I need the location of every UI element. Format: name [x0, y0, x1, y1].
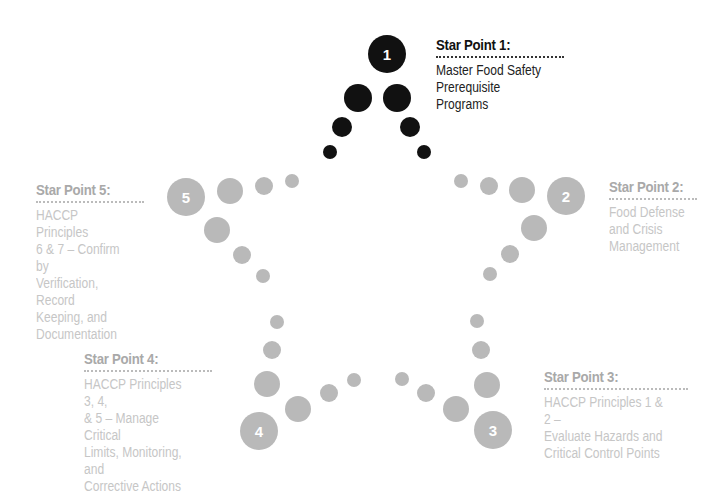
- star-point-5-title: Star Point 5:: [36, 181, 131, 199]
- dotted-divider: [436, 56, 564, 58]
- connector-dot: [233, 246, 251, 264]
- connector-dot: [480, 177, 498, 195]
- star-point-2-description: Food Defense and Crisis Management: [609, 204, 685, 255]
- connector-dot: [472, 341, 490, 359]
- connector-dot: [204, 217, 230, 243]
- star-point-1-circle: 1: [368, 35, 406, 73]
- connector-dot: [509, 177, 535, 203]
- star-point-2-circle: 2: [547, 177, 585, 215]
- connector-dot: [255, 177, 273, 195]
- star-point-2-title: Star Point 2:: [609, 178, 686, 196]
- star-point-3-number: 3: [489, 422, 497, 439]
- connector-dot: [217, 178, 243, 204]
- star-point-4-circle: 4: [240, 412, 278, 450]
- star-point-2-label: Star Point 2: Food Defense and Crisis Ma…: [609, 178, 697, 255]
- connector-dot: [454, 174, 468, 188]
- star-point-3-label: Star Point 3: HACCP Principles 1 & 2 – E…: [544, 368, 688, 462]
- star-point-1-description: Master Food Safety Prerequisite Programs: [436, 62, 546, 113]
- star-point-5-circle: 5: [167, 178, 205, 216]
- connector-dot: [285, 396, 311, 422]
- dotted-divider: [36, 201, 144, 203]
- connector-dot: [474, 372, 500, 398]
- connector-dot: [417, 384, 435, 402]
- star-point-5-number: 5: [182, 189, 190, 206]
- star-point-4-label: Star Point 4: HACCP Principles 3, 4, & 5…: [84, 350, 212, 495]
- star-point-5-description: HACCP Principles 6 & 7 – Confirm by Veri…: [36, 207, 129, 343]
- connector-dot: [285, 174, 299, 188]
- connector-dot: [347, 373, 361, 387]
- star-point-4-description: HACCP Principles 3, 4, & 5 – Manage Crit…: [84, 376, 194, 495]
- connector-dot: [521, 215, 547, 241]
- connector-dot: [270, 315, 284, 329]
- connector-dot: [263, 341, 281, 359]
- connector-dot: [332, 117, 352, 137]
- connector-dot: [320, 384, 338, 402]
- connector-dot: [395, 372, 409, 386]
- star-point-1-title: Star Point 1:: [436, 36, 549, 54]
- star-point-4-title: Star Point 4:: [84, 350, 197, 368]
- connector-dot: [400, 117, 420, 137]
- star-point-1-number: 1: [383, 46, 391, 63]
- connector-dot: [470, 314, 484, 328]
- dotted-divider: [84, 370, 212, 372]
- connector-dot: [383, 84, 411, 112]
- star-point-4-number: 4: [255, 423, 263, 440]
- connector-dot: [256, 269, 270, 283]
- star-point-1-label: Star Point 1: Master Food Safety Prerequ…: [436, 36, 564, 113]
- star-point-5-label: Star Point 5: HACCP Principles 6 & 7 – C…: [36, 181, 144, 343]
- connector-dot: [483, 267, 497, 281]
- connector-dot: [417, 145, 431, 159]
- star-point-3-description: HACCP Principles 1 & 2 – Evaluate Hazard…: [544, 394, 668, 462]
- dotted-divider: [544, 388, 688, 390]
- star-point-3-title: Star Point 3:: [544, 368, 671, 386]
- star-point-2-number: 2: [562, 188, 570, 205]
- connector-dot: [344, 84, 372, 112]
- connector-dot: [323, 145, 337, 159]
- connector-dot: [443, 396, 469, 422]
- star-point-3-circle: 3: [474, 411, 512, 449]
- dotted-divider: [609, 198, 697, 200]
- connector-dot: [254, 371, 280, 397]
- connector-dot: [501, 245, 519, 263]
